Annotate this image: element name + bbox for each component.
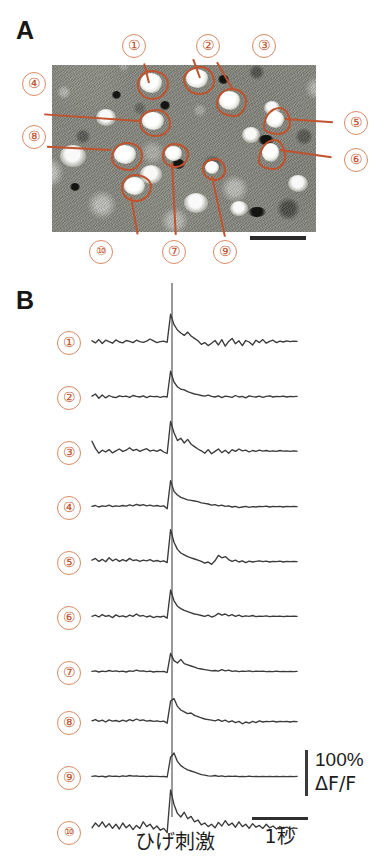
trace-svg [92,577,297,633]
stimulus-caption: ひげ刺激 [110,826,240,855]
roi-label-4[interactable]: ④ [22,72,46,96]
time-scale-bar [252,817,308,820]
roi-label-10[interactable]: ⑩ [89,240,113,264]
trace-svg [92,522,297,578]
trace-row-label[interactable]: ② [57,386,81,410]
roi-label-3[interactable]: ③ [252,34,276,58]
figure-root: A [0,0,388,866]
calibration-unit: ΔF/F [315,772,364,796]
trace-row-label[interactable]: ⑩ [57,821,81,845]
roi-outline-9[interactable] [202,158,226,181]
micrograph-scale-bar [250,236,306,240]
roi-label-9[interactable]: ⑨ [213,240,237,264]
trace-path [92,371,297,398]
trace-row-label[interactable]: ⑤ [57,551,81,575]
trace-path [92,653,297,672]
trace-row-label[interactable]: ③ [57,441,81,465]
trace-row-label[interactable]: ④ [57,496,81,520]
trace-row-label[interactable]: ⑧ [57,711,81,735]
dark-structure [160,101,170,110]
trace-row [92,522,297,578]
trace-row-label[interactable]: ⑨ [57,766,81,790]
dark-structure [70,183,80,191]
roi-label-5[interactable]: ⑤ [344,111,368,135]
trace-path [92,530,297,565]
trace-row-label[interactable]: ⑦ [57,661,81,685]
dark-structure [248,207,266,217]
trace-svg [92,467,297,523]
trace-row [92,737,297,793]
time-scale-label: 1秒 [249,821,311,848]
roi-outline-2[interactable] [183,66,215,95]
trace-row-label[interactable]: ⑥ [57,606,81,630]
time-scale: 1秒 [249,817,311,848]
trace-svg [92,682,297,738]
roi-outline-8[interactable] [111,142,143,171]
roi-label-1[interactable]: ① [122,34,146,58]
trace-path [92,699,297,724]
trace-path [92,481,297,509]
trace-svg [92,412,297,468]
calibration-bar [305,750,308,796]
calibration-label: 100% ΔF/F [315,748,364,796]
roi-label-7[interactable]: ⑦ [162,240,186,264]
roi-outline-3[interactable] [216,88,247,117]
panel-a-letter: A [16,18,34,43]
roi-label-6[interactable]: ⑥ [344,148,368,172]
trace-row-label[interactable]: ① [57,331,81,355]
trace-row [92,577,297,633]
unlabeled-cell [230,201,248,216]
roi-label-2[interactable]: ② [196,34,220,58]
trace-svg [92,632,297,688]
panel-a-micrograph-container [52,65,316,232]
trace-svg [92,357,297,413]
trace-path [92,753,297,777]
trace-path [92,590,297,618]
unlabeled-cell [184,193,208,213]
trace-svg [92,302,297,358]
amplitude-calibration: 100% ΔF/F [305,748,385,804]
trace-svg [92,737,297,793]
dark-structure [112,91,121,99]
roi-outline-4[interactable] [139,109,171,137]
trace-row [92,412,297,468]
trace-path [92,314,297,346]
roi-label-8[interactable]: ⑧ [22,125,46,149]
unlabeled-cell [288,175,308,192]
trace-path [92,421,297,453]
trace-row [92,357,297,413]
calibration-amplitude: 100% [315,748,364,772]
trace-row [92,682,297,738]
trace-row [92,302,297,358]
trace-row [92,632,297,688]
trace-row [92,467,297,523]
